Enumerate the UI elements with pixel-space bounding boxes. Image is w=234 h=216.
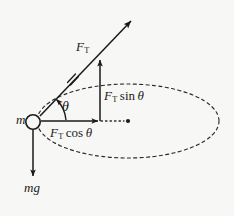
mass-bob-circle <box>26 115 40 129</box>
tension-subscript: T <box>84 46 89 55</box>
tension-force-label: FT <box>76 40 89 55</box>
weight-label: mg <box>24 181 40 194</box>
vertical-component-subscript: T <box>112 95 117 104</box>
angle-label: θ <box>62 100 69 114</box>
orbit-center-dot <box>126 119 130 123</box>
sin-operator: sin <box>120 88 135 103</box>
horizontal-component-subscript: T <box>58 132 63 141</box>
vertical-component-label: FTsinθ <box>104 89 144 104</box>
mass-label: m <box>16 113 25 126</box>
physics-force-diagram: m FT θ FTcosθ FTsinθ mg <box>0 0 234 216</box>
cos-operator: cos <box>66 125 83 140</box>
vertical-component-angle: θ <box>138 88 144 103</box>
horizontal-component-angle: θ <box>86 125 92 140</box>
tension-tick-mark <box>68 74 79 85</box>
horizontal-component-label: FTcosθ <box>50 126 92 141</box>
